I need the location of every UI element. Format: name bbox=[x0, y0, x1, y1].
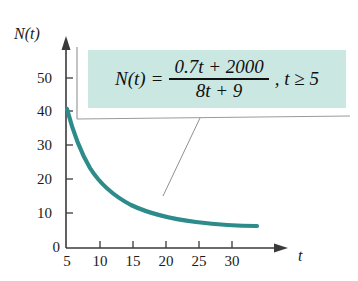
function-curve bbox=[67, 109, 257, 226]
formula-function-name: N(t) bbox=[115, 69, 146, 89]
x-axis-ticks bbox=[100, 241, 232, 248]
x-tick-label-10: 10 bbox=[87, 254, 113, 269]
y-axis-ticks bbox=[66, 78, 73, 213]
y-tick-label-0: 0 bbox=[34, 240, 60, 255]
formula-numerator: 0.7t + 2000 bbox=[169, 57, 268, 78]
y-tick-label-10: 10 bbox=[26, 206, 52, 221]
y-axis bbox=[62, 36, 71, 248]
y-tick-label-20: 20 bbox=[26, 172, 52, 187]
y-axis-label: N(t) bbox=[14, 26, 40, 42]
formula-expression: N(t) = 0.7t + 2000 8t + 9 , t ≥ 5 bbox=[115, 57, 319, 101]
y-tick-label-30: 30 bbox=[26, 138, 52, 153]
x-tick-label-15: 15 bbox=[120, 254, 146, 269]
formula-equals-sign: = bbox=[152, 69, 163, 89]
function-graph-figure: N(t) t 0 10 20 30 40 50 5 10 15 20 25 30… bbox=[0, 0, 358, 281]
formula-denominator: 8t + 9 bbox=[191, 80, 248, 101]
x-axis bbox=[66, 244, 288, 253]
x-axis-label: t bbox=[298, 248, 302, 264]
y-tick-label-50: 50 bbox=[26, 71, 52, 86]
formula-fraction: 0.7t + 2000 8t + 9 bbox=[169, 57, 268, 101]
formula-callout-box: N(t) = 0.7t + 2000 8t + 9 , t ≥ 5 bbox=[88, 50, 346, 108]
leader-line bbox=[163, 118, 200, 196]
formula-domain-condition: , t ≥ 5 bbox=[275, 69, 319, 89]
x-tick-label-20: 20 bbox=[153, 254, 179, 269]
x-tick-label-5: 5 bbox=[54, 254, 80, 269]
y-tick-label-40: 40 bbox=[26, 104, 52, 119]
x-tick-label-30: 30 bbox=[219, 254, 245, 269]
x-tick-label-25: 25 bbox=[186, 254, 212, 269]
